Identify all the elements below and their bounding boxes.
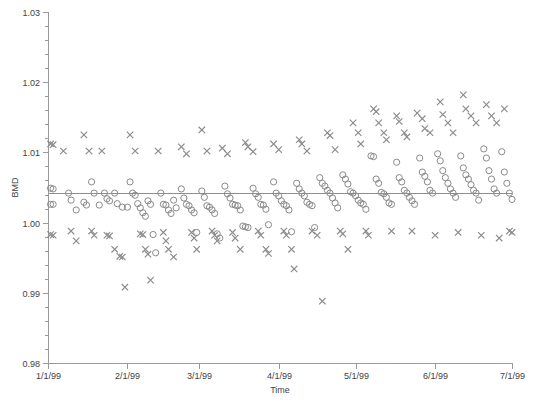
x-tick-label: 5/1/99 (344, 371, 369, 381)
data-point-x (147, 277, 153, 283)
data-point-x (111, 246, 117, 252)
data-point-x (160, 229, 166, 235)
x-axis-title: Time (270, 385, 290, 395)
data-point-circle (363, 206, 369, 212)
data-point-circle (150, 231, 156, 237)
data-point-x (437, 99, 443, 105)
data-point-x (291, 266, 297, 272)
y-tick-label: 0.98 (22, 359, 40, 369)
scatter-plot: 0.980.991.001.011.021.031/1/992/1/993/1/… (0, 0, 538, 412)
data-point-circle (504, 180, 510, 186)
data-point-x (493, 120, 499, 126)
data-point-x (250, 148, 256, 154)
data-point-x (422, 125, 428, 131)
data-point-circle (88, 179, 94, 185)
data-point-x (155, 148, 161, 154)
data-point-circle (424, 179, 430, 185)
data-point-circle (394, 159, 400, 165)
data-point-circle (173, 205, 179, 211)
data-point-circle (96, 202, 102, 208)
data-point-x (450, 130, 456, 136)
data-point-circle (435, 151, 441, 157)
data-point-x (314, 232, 320, 238)
data-point-x (483, 101, 489, 107)
data-point-x (99, 148, 105, 154)
x-tick-label: 2/1/99 (115, 371, 140, 381)
data-point-x (419, 116, 425, 122)
data-point-circle (501, 169, 507, 175)
data-point-x (478, 232, 484, 238)
data-point-x (432, 232, 438, 238)
x-tick-label: 1/1/99 (36, 371, 61, 381)
data-point-x (350, 120, 356, 126)
data-point-x (509, 229, 515, 235)
data-point-x (375, 120, 381, 126)
data-point-x (276, 146, 282, 152)
data-point-circle (476, 197, 482, 203)
data-point-x (237, 246, 243, 252)
data-point-circle (312, 224, 318, 230)
data-point-x (496, 235, 502, 241)
data-point-x (445, 120, 451, 126)
data-point-x (383, 137, 389, 143)
data-point-circle (201, 194, 207, 200)
data-point-circle (499, 149, 505, 155)
data-point-x (455, 229, 461, 235)
x-tick-label: 3/1/99 (187, 371, 212, 381)
data-point-circle (288, 229, 294, 235)
data-point-x (501, 106, 507, 112)
data-point-circle (458, 153, 464, 159)
data-point-x (86, 148, 92, 154)
data-point-circle (127, 179, 133, 185)
data-point-x (409, 228, 415, 234)
data-point-x (358, 141, 364, 147)
data-point-circle (265, 222, 271, 228)
data-point-x (332, 146, 338, 152)
data-point-circle (181, 195, 187, 201)
data-point-x (468, 113, 474, 119)
data-point-circle (483, 155, 489, 161)
y-axis-title: BMD (10, 177, 20, 198)
data-point-x (199, 127, 205, 133)
data-point-x (319, 298, 325, 304)
data-point-x (327, 132, 333, 138)
data-point-circle (486, 168, 492, 174)
data-point-circle (171, 197, 177, 203)
data-point-x (193, 246, 199, 252)
data-point-x (304, 148, 310, 154)
data-point-x (127, 132, 133, 138)
y-tick-label: 1.01 (22, 148, 40, 158)
data-point-circle (481, 146, 487, 152)
data-point-circle (153, 250, 159, 256)
y-tick-label: 0.99 (22, 289, 40, 299)
data-point-circle (222, 183, 228, 189)
data-point-x (427, 130, 433, 136)
data-point-circle (417, 155, 423, 161)
data-point-circle (460, 165, 466, 171)
data-point-circle (335, 205, 341, 211)
data-point-circle (73, 207, 79, 213)
data-point-x (388, 228, 394, 234)
data-point-x (81, 132, 87, 138)
data-point-x (340, 231, 346, 237)
data-point-x (373, 108, 379, 114)
data-point-x (488, 113, 494, 119)
data-point-x (473, 120, 479, 126)
data-point-x (224, 151, 230, 157)
x-tick-label: 4/1/99 (267, 371, 292, 381)
data-point-x (381, 130, 387, 136)
data-point-x (122, 284, 128, 290)
data-point-x (73, 238, 79, 244)
data-point-circle (270, 179, 276, 185)
data-point-x (170, 254, 176, 260)
data-point-x (355, 130, 361, 136)
data-point-circle (68, 197, 74, 203)
data-point-x (163, 238, 169, 244)
data-point-circle (437, 158, 443, 164)
data-point-x (440, 111, 446, 117)
y-tick-label: 1.00 (22, 219, 40, 229)
data-point-circle (440, 168, 446, 174)
x-tick-label: 7/1/99 (500, 371, 525, 381)
bmd-time-scatter-figure: 0.980.991.001.011.021.031/1/992/1/993/1/… (0, 0, 538, 412)
data-point-x (183, 151, 189, 157)
